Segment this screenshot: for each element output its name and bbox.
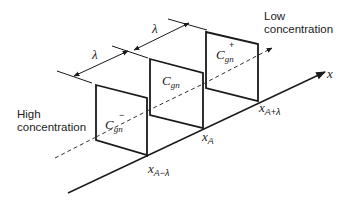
svg-text:−: − (119, 110, 124, 120)
svg-text:xA: xA (201, 129, 214, 146)
plane-center (150, 59, 203, 128)
lambda-label-1: λ (91, 47, 98, 62)
svg-text:xA−λ: xA−λ (147, 161, 169, 178)
dim-arrow-2 (134, 23, 189, 50)
dim-tick-3 (168, 19, 207, 30)
dim-tick-1 (57, 71, 92, 83)
x-axis-label: x (326, 66, 333, 81)
pos-label-center: xA (201, 129, 214, 146)
svg-text:xA+λ: xA+λ (258, 100, 280, 117)
low-concentration-label-line1: Low (264, 10, 286, 22)
low-concentration-label-line2: concentration (264, 23, 333, 35)
high-concentration-label-line1: High (17, 108, 41, 120)
pos-label-plus: xA+λ (258, 100, 280, 117)
centerline-seg-1 (55, 137, 96, 158)
high-concentration-label-line2: concentration (17, 121, 86, 133)
svg-text:+: + (229, 40, 234, 50)
dim-arrow-1 (74, 51, 128, 76)
diffusion-diagram: x λ λ Cgn − Cgn Cgn + xA−λ xA xA+λ Low c… (0, 0, 348, 207)
plane-minus (96, 85, 147, 155)
lambda-label-2: λ (151, 21, 158, 36)
pos-label-minus: xA−λ (147, 161, 169, 178)
